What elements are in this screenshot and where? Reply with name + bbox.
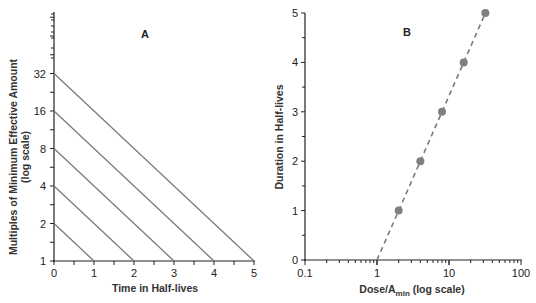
y-tick-label: 0 [292,254,298,266]
x-tick-label: 4 [211,267,217,279]
decay-line [54,74,254,262]
fit-line [377,13,485,260]
chart-a-y-label-sub: (log scale) [19,131,31,183]
chart-b-points [395,9,490,215]
x-tick-label: 1 [374,267,380,279]
chart-a-y-label: Multiples of Minimum Effective Amount [7,58,19,255]
y-tick-label: 16 [34,105,46,117]
x-tick-label: 10 [443,267,455,279]
chart-b-y-label: Duration in Half-lives [273,84,285,189]
chart-b-y-ticks: 012345 [292,7,305,266]
y-tick-label: 2 [40,218,46,230]
chart-b-x-label: Dose/Amin (log scale) [359,283,464,298]
chart-a: 12481632 012345 A Time in Half-lives Mul… [7,12,257,294]
data-point [438,108,446,116]
data-point [460,58,468,66]
figure: 12481632 012345 A Time in Half-lives Mul… [0,0,536,303]
decay-line [54,186,134,261]
y-tick-label: 5 [292,7,298,19]
chart-a-x-label: Time in Half-lives [112,282,198,294]
chart-a-y-ticks: 12481632 [34,14,54,267]
y-tick-label: 4 [292,56,298,68]
x-tick-label: 3 [171,267,177,279]
data-point [395,207,403,215]
chart-b: 012345 0.1110100 B Dose/Amin (log scale)… [273,7,530,298]
x-tick-label: 5 [251,267,257,279]
decay-line [54,111,214,261]
y-tick-label: 1 [40,255,46,267]
chart-b-panel-label: B [403,26,411,38]
chart-b-x-label-sub: min [396,289,410,298]
x-tick-label: 0 [51,267,57,279]
decay-line [54,224,94,262]
chart-b-x-label-main: Dose/A [359,283,396,295]
data-point [481,9,489,17]
chart-b-x-label-suffix: (log scale) [410,283,465,295]
y-tick-label: 8 [40,143,46,155]
chart-b-fit-line [377,13,485,260]
y-tick-label: 32 [34,68,46,80]
chart-a-lines [54,74,254,262]
x-tick-label: 0.1 [297,267,312,279]
x-tick-label: 100 [512,267,530,279]
x-tick-label: 2 [131,267,137,279]
chart-a-panel-label: A [141,28,149,40]
y-tick-label: 2 [292,155,298,167]
y-tick-label: 4 [40,180,46,192]
y-tick-label: 1 [292,205,298,217]
data-point [416,157,424,165]
chart-a-x-ticks: 012345 [51,261,257,279]
x-tick-label: 1 [91,267,97,279]
decay-line [54,149,174,262]
y-tick-label: 3 [292,106,298,118]
chart-b-x-ticks: 0.1110100 [297,260,530,279]
